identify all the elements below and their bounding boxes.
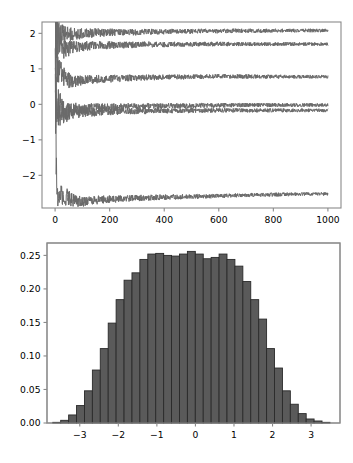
- histogram-bar: [108, 323, 116, 423]
- histogram-bar: [203, 259, 211, 423]
- histogram-bar: [243, 282, 251, 423]
- matplotlib-figure: 02004006008001000−2−1012 −3−2−101230.000…: [0, 0, 353, 463]
- histogram-bar: [227, 259, 235, 423]
- histogram-bar: [140, 259, 148, 423]
- histogram-bar: [156, 253, 164, 423]
- x-tick-label: 1: [231, 429, 237, 440]
- histogram-bar: [219, 254, 227, 423]
- y-tick-label: 0.15: [20, 317, 41, 328]
- x-tick-label: 0: [52, 214, 58, 225]
- histogram-bar: [132, 273, 140, 423]
- convergence-line-1: [55, 0, 328, 63]
- convergence-chart-panel: 02004006008001000−2−1012: [0, 0, 353, 232]
- x-tick-label: 2: [270, 429, 276, 440]
- histogram-chart: −3−2−101230.000.050.100.150.200.25: [0, 232, 353, 463]
- histogram-bar: [251, 300, 259, 423]
- histogram-bar: [298, 414, 306, 423]
- convergence-chart: 02004006008001000−2−1012: [0, 0, 353, 232]
- histogram-bar: [179, 254, 187, 423]
- histogram-bar: [124, 280, 132, 423]
- histogram-bar: [211, 257, 219, 423]
- histogram-bar: [69, 415, 77, 423]
- y-tick-label: −1: [22, 134, 36, 145]
- x-tick-label: 600: [210, 214, 228, 225]
- histogram-bar: [92, 370, 100, 423]
- histogram-bar: [195, 254, 203, 423]
- histogram-bar: [84, 391, 92, 423]
- x-tick-label: 1000: [316, 214, 340, 225]
- convergence-line-2: [55, 18, 328, 75]
- histogram-bars-group: [53, 251, 330, 423]
- x-tick-label: 400: [155, 214, 173, 225]
- histogram-bar: [259, 319, 267, 423]
- y-tick-label: 0.25: [20, 250, 41, 261]
- x-tick-label: −2: [112, 429, 126, 440]
- y-tick-label: 0: [30, 99, 36, 110]
- histogram-bar: [275, 368, 283, 423]
- x-tick-label: −3: [73, 429, 87, 440]
- histogram-bar: [290, 404, 298, 423]
- histogram-bar: [187, 251, 195, 423]
- y-tick-label: 0.05: [20, 384, 41, 395]
- y-tick-label: 0.20: [20, 283, 41, 294]
- y-tick-label: −2: [22, 170, 36, 181]
- x-tick-label: 200: [101, 214, 119, 225]
- y-tick-label: 0.10: [20, 350, 41, 361]
- histogram-bar: [100, 349, 108, 423]
- histogram-bar: [164, 255, 172, 423]
- histogram-bar: [172, 256, 180, 423]
- x-tick-label: −1: [150, 429, 164, 440]
- histogram-bar: [235, 266, 243, 423]
- convergence-series-group: [55, 0, 328, 207]
- histogram-bar: [306, 419, 314, 423]
- histogram-bar: [282, 391, 290, 423]
- histogram-bar: [267, 349, 275, 423]
- convergence-line-5: [55, 49, 328, 134]
- histogram-bar: [77, 406, 85, 423]
- x-tick-label: 3: [308, 429, 314, 440]
- y-tick-label: 0.00: [20, 417, 41, 428]
- histogram-bar: [116, 300, 124, 423]
- x-tick-label: 800: [265, 214, 283, 225]
- x-tick-label: 0: [192, 429, 198, 440]
- y-tick-label: 1: [30, 63, 36, 74]
- histogram-chart-panel: −3−2−101230.000.050.100.150.200.25: [0, 232, 353, 463]
- convergence-line-3: [55, 43, 328, 100]
- histogram-bar: [148, 254, 156, 423]
- y-tick-label: 2: [30, 28, 36, 39]
